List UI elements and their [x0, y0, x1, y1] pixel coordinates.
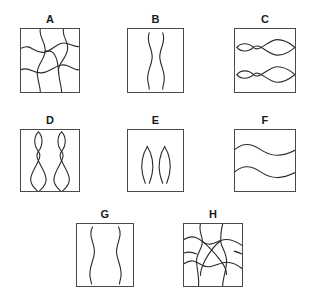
panel-h-label: H — [183, 208, 243, 221]
panel-d-label: D — [20, 114, 80, 127]
panel-h-graphic — [184, 224, 242, 286]
panel-a-label: A — [20, 13, 80, 26]
panel-e: E — [127, 114, 184, 192]
panel-b-label: B — [127, 13, 184, 26]
panel-e-graphic — [128, 130, 183, 191]
panel-f: F — [234, 114, 296, 192]
panel-f-graphic — [235, 130, 295, 191]
panel-a: A — [20, 13, 80, 93]
panel-f-label: F — [234, 114, 296, 127]
figure-panel-grid: A B C — [0, 0, 314, 299]
panel-b: B — [127, 13, 184, 93]
panel-g-box — [76, 223, 134, 287]
panel-h-box — [183, 223, 243, 287]
panel-a-box — [20, 28, 80, 93]
panel-e-label: E — [127, 114, 184, 127]
panel-f-box — [234, 129, 296, 192]
panel-g: G — [76, 208, 134, 287]
panel-h: H — [183, 208, 243, 287]
panel-c-box — [234, 28, 296, 93]
panel-c-label: C — [234, 13, 296, 26]
panel-b-box — [127, 28, 184, 93]
panel-d-box — [20, 129, 80, 192]
panel-b-graphic — [128, 29, 183, 92]
panel-c-graphic — [235, 29, 295, 92]
panel-g-label: G — [76, 208, 134, 221]
panel-c: C — [234, 13, 296, 93]
panel-d-graphic — [21, 130, 79, 191]
panel-g-graphic — [77, 224, 133, 286]
panel-e-box — [127, 129, 184, 192]
panel-a-graphic — [21, 29, 79, 92]
panel-d: D — [20, 114, 80, 192]
